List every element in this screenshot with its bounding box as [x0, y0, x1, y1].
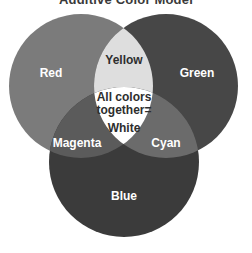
venn-diagram: Red Green Blue Yellow Magenta Cyan All c… — [0, 0, 252, 253]
label-white-line1: All colors — [97, 90, 152, 104]
label-yellow: Yellow — [105, 53, 143, 67]
label-cyan: Cyan — [151, 136, 180, 150]
label-green: Green — [180, 66, 215, 80]
label-blue: Blue — [111, 189, 137, 203]
label-white-line3: White — [108, 121, 141, 135]
label-white-line2: together= — [96, 103, 151, 117]
label-magenta: Magenta — [53, 136, 102, 150]
label-red: Red — [40, 66, 63, 80]
